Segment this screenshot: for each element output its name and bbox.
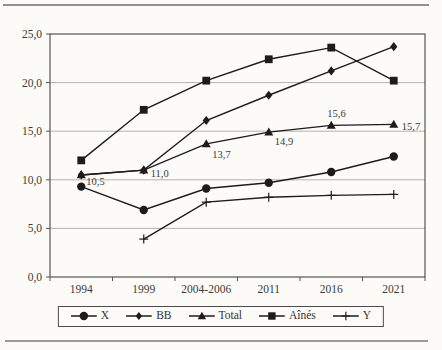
legend-item-total: Total <box>189 310 242 322</box>
series-point-aînés <box>140 106 148 114</box>
series-point-bb <box>265 91 272 100</box>
series-point-x <box>77 182 85 190</box>
y-tick-label: 20,0 <box>22 77 42 90</box>
data-label: 11,0 <box>151 168 169 179</box>
legend-item-x: X <box>71 310 109 322</box>
series-point-x <box>390 152 398 160</box>
series-point-aînés <box>77 156 85 164</box>
series-point-bb <box>390 42 397 51</box>
series-point-x <box>202 184 210 192</box>
x-tick-label: 2016 <box>320 283 343 295</box>
y-tick-label: 25,0 <box>22 28 42 41</box>
legend-label: Aînés <box>289 310 316 322</box>
diamond-marker-icon <box>126 310 152 322</box>
series-line-x <box>81 156 394 209</box>
y-tick-label: 5,0 <box>28 222 43 235</box>
circle-marker-icon <box>71 310 97 322</box>
legend-label: Total <box>219 310 242 322</box>
x-tick-label: 2011 <box>257 283 280 295</box>
line-chart: 0,05,010,015,020,025,0199419992004-20062… <box>0 0 442 302</box>
series-point-bb <box>203 116 210 125</box>
data-label: 13,7 <box>212 149 230 160</box>
data-label: 14,9 <box>275 136 293 147</box>
series-point-aînés <box>327 44 335 52</box>
x-tick-label: 2021 <box>382 283 405 295</box>
x-tick-label: 2004-2006 <box>181 283 231 295</box>
y-tick-label: 10,0 <box>22 174 42 187</box>
series-point-bb <box>328 66 335 75</box>
legend-item-y: Y <box>333 310 371 322</box>
chart-legend: XBBTotalAînésY <box>58 306 384 327</box>
series-point-x <box>140 206 148 214</box>
y-tick-label: 15,0 <box>22 125 42 138</box>
data-label: 15,6 <box>327 108 345 119</box>
y-tick-label: 0,0 <box>28 271 43 284</box>
triangle-marker-icon <box>189 310 215 322</box>
legend-item-bb: BB <box>126 310 171 322</box>
data-label: 10,5 <box>86 176 104 187</box>
figure-page: 0,05,010,015,020,025,0199419992004-20062… <box>0 0 442 350</box>
square-marker-icon <box>259 310 285 322</box>
series-point-aînés <box>265 55 273 63</box>
series-point-aînés <box>202 77 210 85</box>
plus-marker-icon <box>333 310 359 322</box>
series-point-aînés <box>390 77 398 85</box>
series-line-bb <box>81 47 394 175</box>
x-tick-label: 1999 <box>132 283 155 295</box>
data-label: 15,7 <box>402 121 420 132</box>
series-line-total <box>81 124 394 175</box>
bottom-rule <box>5 340 428 342</box>
series-point-x <box>327 168 335 176</box>
legend-label: BB <box>156 310 171 322</box>
legend-label: Y <box>363 310 371 322</box>
legend-label: X <box>101 310 109 322</box>
x-tick-label: 1994 <box>70 283 93 295</box>
legend-item-aînés: Aînés <box>259 310 316 322</box>
series-point-x <box>265 179 273 187</box>
